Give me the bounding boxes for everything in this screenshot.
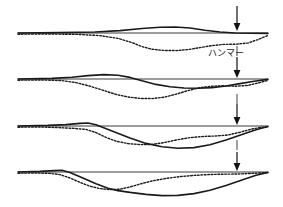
- impact-arrow-1: [234, 6, 241, 31]
- impact-arrow-3: [234, 104, 241, 125]
- deformation-figure: ハンマー: [0, 0, 283, 207]
- arrow-head-2: [234, 70, 241, 78]
- deformation-figure-container: ハンマー: [0, 0, 283, 207]
- ground-curve-1: [18, 27, 268, 33]
- arrow-head-4: [234, 163, 241, 171]
- arrow-head-1: [234, 23, 241, 31]
- hammer-label: ハンマー: [208, 48, 244, 58]
- panel-stage-3: [18, 104, 268, 150]
- impact-arrow-2: [234, 57, 241, 78]
- panel-stage-2: [18, 57, 268, 104]
- settlement-curve-2: [18, 80, 268, 99]
- settlement-curve-4: [18, 173, 268, 190]
- impact-arrow-4: [234, 152, 241, 171]
- panel-stage-4: [18, 152, 268, 196]
- panel-stage-1: ハンマー: [18, 6, 268, 58]
- arrow-head-3: [234, 117, 241, 125]
